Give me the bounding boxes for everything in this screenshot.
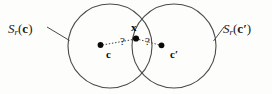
right-distance-question-mark: ? (145, 36, 150, 47)
right-sphere-close-paren: ) (247, 21, 251, 36)
left-center-dot (98, 42, 104, 48)
left-sphere-close-paren: ) (28, 21, 32, 36)
intersection-point-dot (133, 35, 139, 41)
right-center-label: c′ (170, 49, 178, 60)
right-sphere-argument: c′ (237, 21, 246, 36)
left-radius-dotted-line (103, 40, 134, 46)
left-sphere-circle (68, 4, 152, 88)
left-sphere-label: Sr(c) (8, 22, 32, 37)
right-sphere-label: Sr(c′) (223, 22, 251, 37)
right-center-dot (159, 42, 165, 48)
left-distance-question-mark: ? (120, 36, 125, 47)
intersection-point-label: x (131, 22, 137, 33)
diagram-canvas (0, 0, 272, 94)
left-center-label: c (106, 49, 111, 60)
two-overlapping-spheres-diagram: Sr(c) Sr(c′) c c′ x ? ? (0, 0, 272, 94)
left-label-leader-line (47, 27, 70, 41)
